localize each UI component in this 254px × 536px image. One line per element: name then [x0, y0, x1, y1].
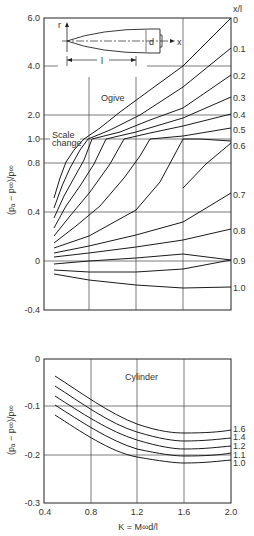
xl-label-0.7: 0.7 [233, 190, 246, 200]
inset-l-label: l [101, 56, 103, 66]
cylinder-curves [55, 376, 231, 463]
xl-label-0.9: 0.9 [233, 256, 246, 266]
xtick-2.0: 2.0 [225, 507, 238, 517]
ogive-chart: 6.0 4.0 2.0 1.0 0.8 0.4 0 -0.4 (pₐ − p∞)… [6, 4, 246, 315]
ytick-1.0: 1.0 [27, 134, 40, 144]
ogive-curves [54, 18, 231, 288]
ytick-neg0.2: -0.2 [24, 450, 40, 460]
cylinder-y-axis-label: (pₐ − p∞)/p∞ [6, 405, 16, 455]
xtick-0.4: 0.4 [39, 507, 52, 517]
xtick-0.8: 0.8 [85, 507, 98, 517]
legend-title-x-over-l: x/l [233, 4, 242, 14]
xl-label-1.0: 1.0 [233, 283, 246, 293]
xl-label-0.2: 0.2 [233, 71, 246, 81]
xl-label-0.6: 0.6 [233, 141, 246, 151]
inset-r-label: r [58, 20, 61, 30]
cylinder-chart: 0 -0.1 -0.2 -0.3 (pₐ − p∞)/p∞ Cylinder 1… [6, 354, 246, 532]
inset-x-label: x [177, 37, 182, 47]
ogive-right-labels: 0 0.1 0.2 0.3 0.4 0.5 0.6 0.7 0.8 0.9 1.… [233, 15, 246, 293]
figure: 6.0 4.0 2.0 1.0 0.8 0.4 0 -0.4 (pₐ − p∞)… [0, 0, 254, 536]
ytick-4.0: 4.0 [27, 61, 40, 71]
xl-label-0.3: 0.3 [233, 93, 246, 103]
xl-label-0.8: 0.8 [233, 226, 246, 236]
ytick-neg0.1: -0.1 [24, 401, 40, 411]
ytick-neg0.3: -0.3 [24, 498, 40, 508]
ogive-y-axis: 6.0 4.0 2.0 1.0 0.8 0.4 0 -0.4 [24, 13, 50, 315]
xl-label-0.5: 0.5 [233, 125, 246, 135]
ogive-y-axis-label: (pₐ − p∞)/p∞ [6, 165, 16, 215]
cylinder-title: Cylinder [125, 372, 158, 382]
ytick-6.0: 6.0 [27, 13, 40, 23]
ytick-neg0.4: -0.4 [24, 305, 40, 315]
xtick-1.6: 1.6 [178, 507, 191, 517]
xl-label-0.4: 0.4 [233, 110, 246, 120]
cylinder-right-labels: 1.6 1.4 1.2 1.1 1.0 [233, 424, 246, 468]
ytick-0.4: 0.4 [27, 207, 40, 217]
ytick-0: 0 [35, 354, 40, 364]
ogive-inset-diagram: r x d l [58, 20, 182, 66]
inset-d-label: d [149, 37, 154, 47]
k-label-1.0: 1.0 [233, 458, 246, 468]
ytick-0.8: 0.8 [27, 158, 40, 168]
x-axis: 0.4 0.8 1.2 1.6 2.0 [39, 507, 238, 517]
ogive-title: Ogive [101, 93, 125, 103]
cylinder-y-axis: 0 -0.1 -0.2 -0.3 [24, 354, 40, 508]
x-axis-label: K = M∞d/l [118, 522, 158, 532]
xtick-1.2: 1.2 [131, 507, 144, 517]
xl-label-0: 0 [233, 15, 238, 25]
ytick-2.0: 2.0 [27, 110, 40, 120]
xl-label-0.1: 0.1 [233, 44, 246, 54]
ytick-0: 0 [35, 256, 40, 266]
